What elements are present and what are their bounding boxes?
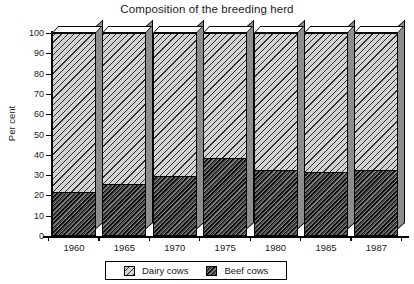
y-axis-tick-label: 100 [14,28,44,38]
bar-top-face [52,26,102,33]
y-axis-tick-label: 60 [14,109,44,119]
y-axis-tick-label: 90 [14,48,44,58]
y-axis-tick-label: 10 [14,211,44,221]
bar-segment-dairy-cows[interactable] [154,34,196,178]
bar-segment-beef-cows[interactable] [305,172,347,235]
bar-top-face [153,26,203,33]
x-axis-tick-mark [48,236,49,241]
bar-side-face [398,20,405,229]
chart-title: Composition of the breeding herd [0,3,414,15]
y-axis-tick-label: 50 [14,130,44,140]
x-axis-tick-mark [401,236,402,241]
y-axis-tick-label: 80 [14,69,44,79]
bar-column[interactable] [102,33,146,236]
x-axis-tick-mark [98,236,99,241]
y-axis-tick-label: 70 [14,89,44,99]
bar-segment-dairy-cows[interactable] [255,34,297,172]
x-axis-tick-mark [250,236,251,241]
bar-column[interactable] [52,33,96,236]
x-axis-tick-mark [199,236,200,241]
legend-swatch-icon [206,266,217,276]
bar-column[interactable] [354,33,398,236]
x-axis-tick-mark [149,236,150,241]
legend-label: Dairy cows [142,265,188,276]
bar-segment-beef-cows[interactable] [355,170,397,235]
bar-segment-dairy-cows[interactable] [204,34,246,160]
legend-item[interactable]: Beef cows [206,265,268,276]
bar-column[interactable] [304,33,348,236]
bar-top-face [304,26,354,33]
bar-column[interactable] [153,33,197,236]
bar-top-face [354,26,404,33]
y-axis-tick-label: 30 [14,170,44,180]
y-axis-tick-label: 0 [14,231,44,241]
bar-top-face [203,26,253,33]
x-axis-tick-label: 1987 [346,242,406,253]
bar-segment-beef-cows[interactable] [154,176,196,235]
bar-segment-dairy-cows[interactable] [103,34,145,186]
bar-segment-beef-cows[interactable] [53,192,95,235]
bar-segment-beef-cows[interactable] [255,170,297,235]
y-axis-tick-label: 20 [14,190,44,200]
legend-label: Beef cows [224,265,268,276]
x-axis-tick-mark [350,236,351,241]
bar-segment-dairy-cows[interactable] [53,34,95,194]
y-axis-labels: 0102030405060708090100 [0,0,44,284]
bar-top-face [254,26,304,33]
legend-swatch-icon [124,266,135,276]
bar-column[interactable] [203,33,247,236]
chart-legend: Dairy cowsBeef cows [105,261,287,280]
x-axis-tick-mark [300,236,301,241]
bar-segment-beef-cows[interactable] [204,158,246,235]
y-axis-tick-label: 40 [14,150,44,160]
legend-item[interactable]: Dairy cows [124,265,188,276]
chart-container: Composition of the breeding herd Per cen… [0,0,414,284]
bar-segment-dairy-cows[interactable] [355,34,397,172]
bar-top-face [102,26,152,33]
bar-segment-beef-cows[interactable] [103,184,145,235]
bar-column[interactable] [254,33,298,236]
bar-segment-dairy-cows[interactable] [305,34,347,174]
